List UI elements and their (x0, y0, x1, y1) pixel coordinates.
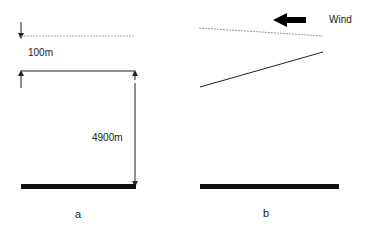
panel-a-label: a (75, 208, 82, 220)
lower-slope-line (200, 52, 323, 87)
gap-label: 100m (28, 47, 53, 58)
panel-b: Wind b (199, 13, 352, 219)
diagram: 100m 4900m a Wind b (0, 0, 367, 228)
ground-a (21, 184, 136, 189)
panel-b-label: b (263, 207, 269, 219)
wind-label: Wind (329, 14, 352, 25)
panel-a: 100m 4900m a (21, 22, 136, 220)
ground-b (200, 184, 339, 189)
upper-dashed-slope (199, 28, 323, 36)
height-label: 4900m (92, 132, 123, 143)
wind-arrow-icon (273, 13, 306, 27)
